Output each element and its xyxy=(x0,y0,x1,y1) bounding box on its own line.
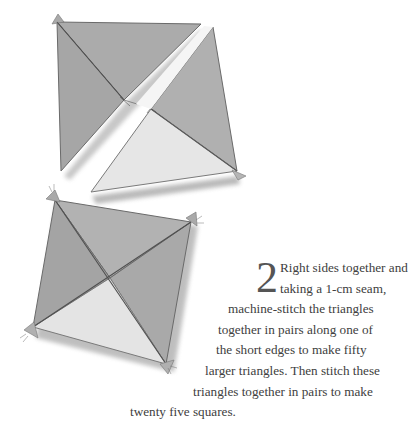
instruction-line: Right sides together and xyxy=(120,258,382,279)
instruction-line: triangles together in pairs to make xyxy=(120,382,382,403)
instruction-line: together in pairs along one of xyxy=(120,320,382,341)
instruction-line: taking a 1-cm seam, xyxy=(120,279,382,300)
instruction-text: 2 Right sides together and taking a 1-cm… xyxy=(120,258,382,423)
instruction-line: twenty five squares. xyxy=(130,402,382,423)
step-number: 2 xyxy=(256,258,278,298)
instruction-line: the short edges to make fifty xyxy=(120,340,382,361)
instruction-line: larger triangles. Then stitch these xyxy=(120,361,382,382)
instruction-line: machine-stitch the triangles xyxy=(120,299,382,320)
